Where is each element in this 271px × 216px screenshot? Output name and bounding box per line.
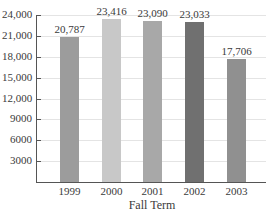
y-tick-label: 6000 bbox=[2, 134, 32, 145]
bar-2002 bbox=[185, 22, 204, 182]
y-tick-label: 18,000 bbox=[2, 51, 32, 62]
value-label: 23,416 bbox=[90, 5, 134, 17]
bar-1999 bbox=[60, 37, 79, 182]
x-tick-label: 2001 bbox=[138, 185, 168, 197]
bar-chart: 30006000900012,00015,00018,00021,00024,0… bbox=[0, 0, 271, 216]
value-label: 17,706 bbox=[215, 45, 259, 57]
x-axis-title: Fall Term bbox=[102, 198, 202, 213]
bar-2000 bbox=[102, 19, 121, 182]
x-axis-line bbox=[36, 182, 266, 183]
y-tick-label: 9000 bbox=[2, 113, 32, 124]
y-axis-line bbox=[36, 15, 37, 183]
y-tick-label: 21,000 bbox=[2, 30, 32, 41]
y-tick-label: 3000 bbox=[2, 155, 32, 166]
x-tick-label: 2000 bbox=[97, 185, 127, 197]
x-tick-label: 2002 bbox=[180, 185, 210, 197]
y-tick-label: 24,000 bbox=[2, 9, 32, 20]
y-tick-label: 15,000 bbox=[2, 72, 32, 83]
bar-2001 bbox=[143, 21, 162, 182]
x-tick-label: 1999 bbox=[55, 185, 85, 197]
x-tick-label: 2003 bbox=[222, 185, 252, 197]
value-label: 20,787 bbox=[48, 23, 92, 35]
value-label: 23,090 bbox=[131, 7, 175, 19]
value-label: 23,033 bbox=[173, 8, 217, 20]
y-tick-label: 12,000 bbox=[2, 93, 32, 104]
bar-2003 bbox=[227, 59, 246, 182]
